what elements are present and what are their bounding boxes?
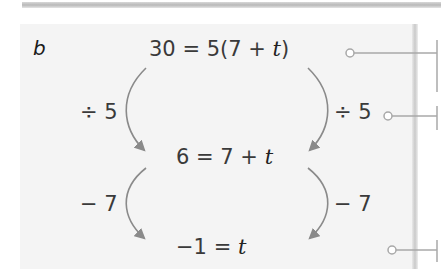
callout-connector-3 bbox=[388, 240, 437, 262]
diagram-overlay bbox=[0, 0, 441, 269]
arrow-right-step-2 bbox=[308, 168, 328, 238]
callout-connector-2 bbox=[384, 106, 437, 130]
arrow-right-step-1 bbox=[308, 68, 328, 150]
arrow-left-step-2 bbox=[126, 168, 146, 238]
callout-connector-1 bbox=[346, 40, 437, 92]
arrow-left-step-1 bbox=[126, 68, 146, 150]
